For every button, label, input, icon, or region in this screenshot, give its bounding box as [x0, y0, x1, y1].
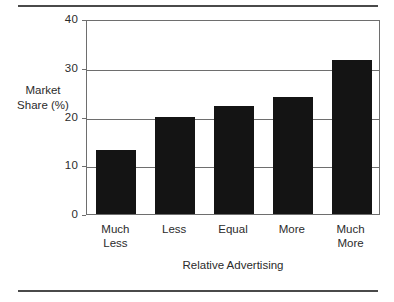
y-axis-title-line-2: Share [17, 99, 48, 111]
y-tick-label: 10 [44, 160, 78, 172]
bar-chart-figure: Market Share (%) 010203040 MuchLessLessE… [0, 0, 394, 302]
bar [155, 117, 195, 215]
x-tick-label-line: Less [78, 236, 152, 250]
y-tick-mark [82, 215, 86, 216]
bottom-horizontal-rule [18, 290, 378, 292]
y-axis-title-line-3: (%) [51, 99, 69, 111]
y-tick-label: 0 [44, 209, 78, 221]
y-tick-label: 40 [44, 14, 78, 26]
bar [214, 106, 254, 214]
y-axis-title: Market Share (%) [12, 83, 74, 113]
bar-series [87, 21, 379, 214]
x-tick-label-line: More [314, 236, 388, 250]
bar [96, 150, 136, 214]
x-tick-label-line: Much [314, 222, 388, 236]
y-tick-label: 20 [44, 112, 78, 124]
top-horizontal-rule [18, 5, 378, 7]
y-axis-title-line-1: Market [25, 84, 60, 96]
x-tick-label: MuchMore [314, 222, 388, 250]
bar [273, 97, 313, 214]
y-tick-label: 30 [44, 63, 78, 75]
plot-area [86, 20, 380, 215]
x-axis-title: Relative Advertising [86, 259, 380, 272]
bar [332, 60, 372, 214]
